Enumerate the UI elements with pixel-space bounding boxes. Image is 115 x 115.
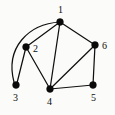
graph-vertex-1 [57,19,64,26]
edge-layer [12,22,95,89]
graph-edge-2-4 [26,47,50,89]
graph-figure: 123456 [0,0,115,115]
vertex-label-4: 4 [47,97,52,107]
graph-edge-2-3 [17,47,26,83]
graph-edge-4-5 [50,85,93,89]
graph-vertex-2 [23,44,30,51]
vertex-label-5: 5 [91,93,96,103]
graph-edge-1-6 [60,22,95,45]
graph-edge-5-6 [93,45,95,85]
vertex-label-6: 6 [102,41,107,51]
graph-vertex-3 [13,82,20,89]
graph-vertex-4 [47,86,54,93]
vertex-label-1: 1 [58,5,63,15]
vertex-label-2: 2 [33,44,38,54]
graph-edge-4-6 [50,45,95,89]
graph-edge-1-4 [50,22,60,89]
graph-vertex-6 [92,42,99,49]
vertex-label-3: 3 [13,93,18,103]
graph-vertex-5 [90,82,97,89]
